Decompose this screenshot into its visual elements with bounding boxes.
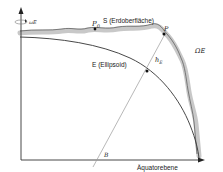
equator-label: Äquatorebene — [137, 164, 178, 172]
omega-e-label: ΩE — [194, 47, 205, 55]
p-label: P — [163, 25, 169, 33]
ellipsoid-label: E (Ellipsoid) — [92, 61, 127, 69]
axis-arrowhead-right — [198, 158, 205, 163]
surface-label: S (Erdoberfläche) — [103, 17, 154, 25]
ellipsoid-normal-line — [93, 34, 165, 167]
geodesy-diagram: ωE P0 S (Erdoberfläche) P ΩE E (Ellipsoi… — [0, 0, 223, 172]
b-label: B — [103, 151, 109, 158]
ellipsoid-curve — [20, 37, 199, 158]
point-ellipsoid — [146, 70, 149, 73]
axis-arrowhead-up — [19, 7, 24, 14]
height-label: hE — [155, 56, 163, 65]
rotation-label: ωE — [29, 19, 37, 25]
p0-label: P0 — [91, 20, 101, 29]
